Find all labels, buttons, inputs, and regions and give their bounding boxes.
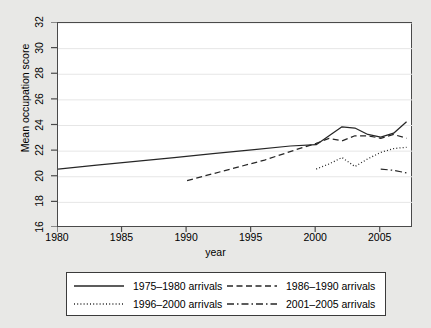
legend-line-dashed-icon: [226, 280, 278, 292]
x-tick-label: 1995: [229, 231, 273, 243]
y-tick-label: 32: [28, 16, 50, 28]
y-tick-label: 28: [28, 67, 50, 79]
y-axis-tick-marks: [50, 22, 58, 227]
y-tick-label: 18: [28, 195, 50, 207]
legend-entry-2: 1996–2000 arrivals: [73, 295, 226, 313]
legend-line-solid-icon: [73, 280, 125, 292]
legend-entry-0: 1975–1980 arrivals: [73, 277, 226, 295]
legend-label: 1986–1990 arrivals: [286, 280, 375, 292]
x-tick-label: 2000: [293, 231, 337, 243]
x-tick-label: 1980: [35, 231, 79, 243]
plot-canvas: [58, 23, 413, 228]
series-line: [187, 134, 406, 180]
y-tick-label: 24: [28, 119, 50, 131]
legend-line-dotted-icon: [73, 298, 125, 310]
x-axis-title: year: [0, 246, 431, 258]
y-tick-label: 22: [28, 144, 50, 156]
legend-label: 1975–1980 arrivals: [133, 280, 222, 292]
chart-legend: 1975–1980 arrivals 1986–1990 arrivals 19…: [66, 272, 386, 316]
y-axis-title: Mean occupation score: [19, 28, 31, 168]
chart-figure: 161820222426283032 Mean occupation score…: [0, 0, 431, 328]
y-tick-label: 26: [28, 93, 50, 105]
series-line: [381, 169, 407, 173]
legend-label: 1996–2000 arrivals: [133, 298, 222, 310]
gridlines: [58, 23, 413, 202]
legend-row: 1996–2000 arrivals 2001–2005 arrivals: [73, 295, 379, 313]
x-tick-label: 1985: [100, 231, 144, 243]
x-tick-label: 1990: [164, 231, 208, 243]
legend-row: 1975–1980 arrivals 1986–1990 arrivals: [73, 277, 379, 295]
series-line: [316, 147, 406, 169]
y-tick-label: 20: [28, 170, 50, 182]
y-tick-label: 30: [28, 42, 50, 54]
plot-area: [57, 22, 412, 227]
legend-entry-1: 1986–1990 arrivals: [226, 277, 379, 295]
legend-line-dashdot-icon: [226, 298, 278, 310]
x-tick-label: 2005: [358, 231, 402, 243]
legend-entry-3: 2001–2005 arrivals: [226, 295, 379, 313]
series-line: [58, 122, 407, 169]
legend-label: 2001–2005 arrivals: [286, 298, 375, 310]
